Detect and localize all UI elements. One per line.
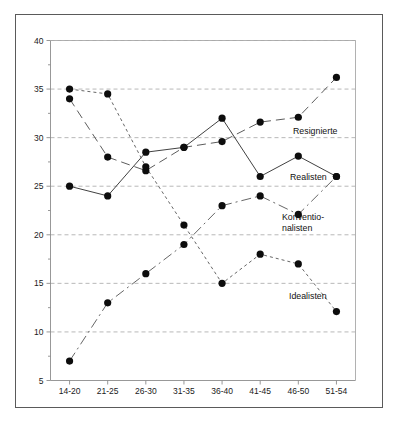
- data-point: [218, 115, 225, 122]
- y-tick-label: 20: [34, 230, 44, 240]
- x-category-label: 51-54: [326, 386, 348, 396]
- y-tick-label: 30: [34, 133, 44, 143]
- series-label-konventionalisten-line2: nalisten: [282, 223, 312, 233]
- y-axis: [47, 41, 51, 381]
- y-tick-label: 15: [34, 278, 44, 288]
- data-point: [66, 357, 73, 364]
- series-line-idealisten: [70, 89, 337, 311]
- gridlines: [51, 41, 356, 332]
- data-point: [333, 173, 340, 180]
- data-point: [218, 138, 225, 145]
- series-label-idealisten: Idealisten: [289, 291, 327, 301]
- data-point: [104, 90, 111, 97]
- data-point: [104, 299, 111, 306]
- x-category-label: 26-30: [135, 386, 157, 396]
- data-point: [218, 280, 225, 287]
- series-label-konventionalisten-line1: Konventio-: [282, 212, 324, 222]
- x-category-label: 41-45: [249, 386, 271, 396]
- data-point: [66, 95, 73, 102]
- data-point: [104, 192, 111, 199]
- data-point: [180, 241, 187, 248]
- x-category-label: 21-25: [97, 386, 119, 396]
- line-chart: 510152025303540 14-2021-2526-3031-3536-4…: [0, 0, 398, 432]
- plot-wrapper: 510152025303540 14-2021-2526-3031-3536-4…: [0, 0, 398, 432]
- x-tick-labels: 14-2021-2526-3031-3536-4041-4546-5051-54: [59, 386, 348, 396]
- data-point: [66, 85, 73, 92]
- data-point: [257, 119, 264, 126]
- data-point: [142, 149, 149, 156]
- data-point: [180, 144, 187, 151]
- y-tick-label: 5: [39, 376, 44, 386]
- data-point: [295, 153, 302, 160]
- data-point: [333, 74, 340, 81]
- data-point: [142, 163, 149, 170]
- data-point: [333, 308, 340, 315]
- plot-border: [51, 41, 356, 381]
- data-point: [142, 270, 149, 277]
- y-tick-label: 35: [34, 84, 44, 94]
- data-point: [257, 251, 264, 258]
- x-category-label: 14-20: [59, 386, 81, 396]
- data-point: [218, 202, 225, 209]
- y-tick-label: 25: [34, 181, 44, 191]
- series-line-konventionalisten: [70, 177, 337, 362]
- y-tick-label: 10: [34, 327, 44, 337]
- x-axis: [51, 381, 356, 385]
- x-category-label: 36-40: [211, 386, 233, 396]
- y-tick-label: 40: [34, 36, 44, 46]
- x-category-label: 46-50: [287, 386, 309, 396]
- series-label-resignierte: Resignierte: [293, 126, 338, 136]
- data-point: [257, 192, 264, 199]
- data-point: [257, 173, 264, 180]
- series-annotations: ResignierteRealistenKonventio-nalistenId…: [282, 126, 338, 301]
- y-tick-labels: 510152025303540: [34, 36, 44, 386]
- data-point: [180, 221, 187, 228]
- data-point: [295, 260, 302, 267]
- data-point: [104, 153, 111, 160]
- figure: 510152025303540 14-2021-2526-3031-3536-4…: [0, 0, 398, 432]
- x-category-label: 31-35: [173, 386, 195, 396]
- data-point: [66, 183, 73, 190]
- data-point: [295, 114, 302, 121]
- series-label-realisten: Realisten: [290, 172, 327, 182]
